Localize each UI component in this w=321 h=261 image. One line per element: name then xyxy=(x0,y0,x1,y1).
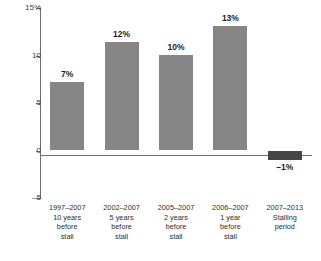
bar[interactable] xyxy=(50,82,84,150)
plot-area: 7%12%10%13%–1% xyxy=(40,8,312,198)
bar-slot: 12% xyxy=(105,8,139,198)
x-axis-label-1: 2002–2007 5 years before stall xyxy=(94,203,148,241)
bar-value-label: 10% xyxy=(145,43,207,52)
bar-value-label: 13% xyxy=(199,14,261,23)
y-tick-label: –5 xyxy=(7,194,41,202)
x-axis-label-2: 2005–2007 2 years before stall xyxy=(149,203,203,241)
x-axis-label-4: 2007–2013 Stalling period xyxy=(258,203,312,232)
bar-slot: 7% xyxy=(50,8,84,198)
bar-slot: –1% xyxy=(268,8,302,198)
y-tick-label: 5 xyxy=(7,99,41,107)
bar[interactable] xyxy=(159,55,193,151)
x-axis-label-0: 1997–2007 10 years before stall xyxy=(40,203,94,241)
bar[interactable] xyxy=(105,42,139,150)
bar-slot: 10% xyxy=(159,8,193,198)
bar-value-label: 12% xyxy=(91,30,153,39)
bar-value-label: 7% xyxy=(36,70,98,79)
bar[interactable] xyxy=(268,151,302,161)
y-tick-label: 0 xyxy=(7,147,41,155)
x-axis-label-3: 2006–2007 1 year before stall xyxy=(203,203,257,241)
y-tick-label: 10 xyxy=(7,52,41,60)
bar-slot: 13% xyxy=(213,8,247,198)
bar[interactable] xyxy=(213,26,247,150)
y-tick-label: 15% xyxy=(7,4,41,12)
bar-value-label: –1% xyxy=(254,163,316,172)
bar-chart: 15%1050–5 7%12%10%13%–1% 1997–2007 10 ye… xyxy=(0,0,321,261)
